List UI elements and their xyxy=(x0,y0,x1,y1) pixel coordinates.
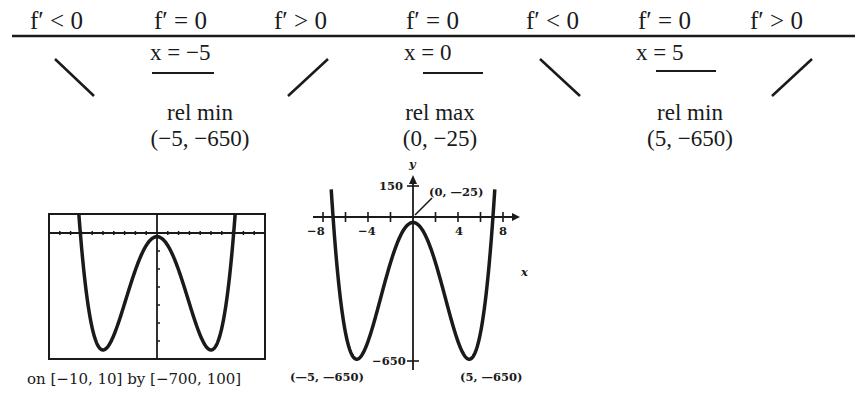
x-tick-label: −4 xyxy=(358,224,376,238)
point-annotation: (5, —650) xyxy=(460,370,522,384)
point-annotation: (—5, —650) xyxy=(290,370,364,384)
point-annotation: (0, —25) xyxy=(429,185,483,199)
sketch-graph xyxy=(0,0,867,403)
x-tick-label: 8 xyxy=(499,224,507,238)
x-axis-label: x xyxy=(521,265,528,279)
x-tick-label: −8 xyxy=(307,224,325,238)
y-tick-label: 150 xyxy=(379,179,403,193)
y-tick-label: −650 xyxy=(372,354,406,368)
y-axis-label: y xyxy=(409,157,416,171)
x-tick-label: 4 xyxy=(455,224,463,238)
